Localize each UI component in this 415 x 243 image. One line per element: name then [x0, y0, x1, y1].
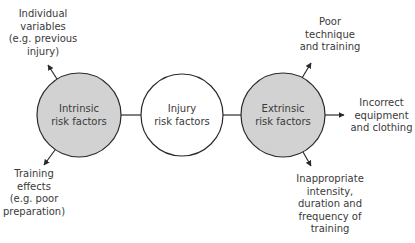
- text-line: technique: [295, 29, 365, 42]
- individual-variables-label: Individual variables (e.g. previous inju…: [0, 8, 86, 58]
- text-line: and training: [295, 41, 365, 54]
- text-line: Inappropriate: [292, 173, 368, 186]
- text-line: variables: [0, 21, 86, 34]
- intrinsic-label-line2: risk factors: [39, 116, 119, 129]
- injury-label: Injury risk factors: [142, 103, 222, 128]
- injury-label-line2: risk factors: [142, 116, 222, 129]
- text-line: frequency of: [292, 211, 368, 224]
- text-line: (e.g. previous: [0, 33, 86, 46]
- text-line: injury): [0, 46, 86, 59]
- text-line: equipment: [348, 110, 415, 123]
- text-line: intensity,: [292, 186, 368, 199]
- text-line: training: [292, 223, 368, 236]
- inappropriate-intensity-label: Inappropriate intensity, duration and fr…: [292, 173, 368, 236]
- extrinsic-label: Extrinsic risk factors: [243, 103, 323, 128]
- incorrect-equipment-label: Incorrect equipment and clothing: [348, 97, 415, 135]
- arrow-to-inappropriate-intensity: [303, 152, 311, 166]
- arrow-to-poor-technique: [302, 63, 311, 78]
- text-line: effects: [0, 181, 68, 194]
- text-line: duration and: [292, 198, 368, 211]
- poor-technique-label: Poor technique and training: [295, 16, 365, 54]
- training-effects-label: Training effects (e.g. poor preparation): [0, 168, 68, 218]
- arrow-to-individual-variables: [48, 65, 57, 79]
- intrinsic-label: Intrinsic risk factors: [39, 103, 119, 128]
- text-line: (e.g. poor: [0, 193, 68, 206]
- text-line: preparation): [0, 206, 68, 219]
- arrow-to-training-effects: [44, 150, 55, 165]
- extrinsic-label-line2: risk factors: [243, 116, 323, 129]
- text-line: Individual: [0, 8, 86, 21]
- text-line: and clothing: [348, 122, 415, 135]
- injury-risk-diagram: Intrinsic risk factors Injury risk facto…: [0, 0, 415, 243]
- text-line: Incorrect: [348, 97, 415, 110]
- extrinsic-label-line1: Extrinsic: [243, 103, 323, 116]
- text-line: Training: [0, 168, 68, 181]
- intrinsic-label-line1: Intrinsic: [39, 103, 119, 116]
- text-line: Poor: [295, 16, 365, 29]
- injury-label-line1: Injury: [142, 103, 222, 116]
